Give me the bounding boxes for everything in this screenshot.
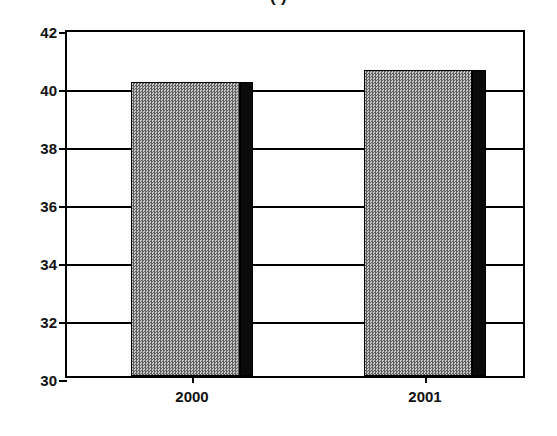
y-axis-tick [59,90,67,92]
y-axis-tick [59,264,67,266]
y-axis-tick-label: 30 [40,372,57,389]
y-axis-tick [59,380,67,382]
y-axis-tick [59,322,67,324]
y-axis-tick-label: 42 [40,24,57,41]
x-axis-category-label: 2001 [408,388,441,405]
y-axis-tick-label: 32 [40,314,57,331]
chart-title: ( ) [0,0,557,9]
y-axis-tick-label: 34 [40,256,57,273]
bar-face [364,70,472,376]
bar-face [131,82,240,376]
y-axis-tick-label: 36 [40,198,57,215]
y-axis-tick-label: 38 [40,140,57,157]
bar-shadow [472,70,486,376]
x-axis-tick [425,376,427,383]
y-axis-tick [59,148,67,150]
bar [131,82,253,376]
bar-chart-figure: ( ) 30323436384042 20002001 [0,0,557,436]
y-axis-tick [59,206,67,208]
x-axis-tick [192,376,194,383]
x-axis-category-label: 2000 [175,388,208,405]
y-axis-tick-label: 40 [40,82,57,99]
plot-area: 30323436384042 20002001 [65,30,525,378]
bar [364,70,486,376]
bar-shadow [240,82,253,376]
y-axis-tick [59,32,67,34]
